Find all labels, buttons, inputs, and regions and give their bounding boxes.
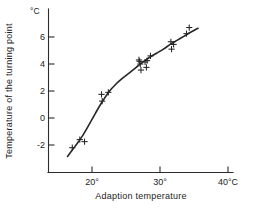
fitted-curve	[68, 28, 199, 156]
y-tick-label: 4	[40, 59, 45, 69]
y-tick-label: 0	[40, 113, 45, 123]
chart-figure: °C -20246 20°30°40°C Adaption temperatur…	[0, 0, 253, 209]
x-axis-ticks: 20°30°40°C	[85, 167, 238, 188]
x-axis-title: Adaption temperature	[95, 191, 187, 201]
y-tick-label: 2	[40, 86, 45, 96]
data-point	[98, 91, 104, 97]
data-point	[143, 64, 149, 70]
scatter-plot: °C -20246 20°30°40°C Adaption temperatur…	[0, 0, 253, 209]
x-tick-label: 30°	[153, 177, 167, 187]
data-point	[138, 67, 144, 73]
data-point	[168, 39, 174, 45]
data-point	[186, 24, 192, 30]
x-tick-label: 40°C	[218, 177, 239, 187]
data-point	[69, 145, 75, 151]
y-tick-label: -2	[37, 140, 45, 150]
y-axis-ticks: -20246	[37, 32, 55, 150]
x-tick-label: 20°	[85, 177, 99, 187]
y-axis-title: Temperature of the turning point	[4, 23, 14, 159]
y-tick-label: 6	[40, 32, 45, 42]
y-axis-unit-label: °C	[30, 6, 40, 16]
data-point	[136, 57, 142, 63]
data-point-markers	[69, 24, 192, 150]
